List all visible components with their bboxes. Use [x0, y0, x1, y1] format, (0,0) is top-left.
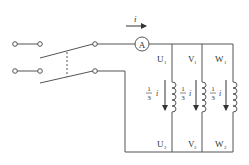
- terminal-v2: V 2: [188, 139, 197, 150]
- winding-w: [233, 44, 237, 152]
- svg-text:3: 3: [211, 94, 215, 102]
- svg-text:1: 1: [211, 85, 215, 93]
- branch-current-u: 1 3 i: [146, 85, 158, 102]
- input-terminal-bottom: [13, 69, 43, 74]
- svg-text:i: i: [156, 89, 158, 98]
- terminal-v1: V 1: [188, 54, 197, 65]
- winding-u: [172, 44, 176, 152]
- svg-text:U: U: [157, 139, 164, 149]
- svg-text:1: 1: [194, 60, 197, 65]
- terminal-w1: W 1: [215, 54, 227, 65]
- terminal-w2: W 2: [215, 139, 227, 150]
- svg-text:i: i: [219, 89, 221, 98]
- ammeter-label: A: [139, 40, 146, 50]
- svg-text:2: 2: [224, 145, 227, 150]
- svg-text:3: 3: [181, 94, 185, 102]
- svg-text:1: 1: [181, 85, 185, 93]
- svg-text:3: 3: [147, 94, 151, 102]
- svg-text:1: 1: [147, 85, 151, 93]
- current-label: i: [134, 14, 137, 24]
- winding-v: [202, 44, 206, 152]
- branch-current-w: 1 3 i: [210, 85, 221, 102]
- double-pole-switch: [40, 42, 97, 83]
- terminal-u1: U 1: [157, 54, 167, 65]
- svg-text:W: W: [215, 139, 224, 149]
- svg-text:W: W: [215, 54, 224, 64]
- svg-text:1: 1: [224, 60, 227, 65]
- circuit-diagram: i A 1 3 i 1 3 i 1 3 i U 1 V 1 W 1 U 2 V: [0, 0, 249, 165]
- svg-text:1: 1: [164, 60, 167, 65]
- svg-text:2: 2: [164, 145, 167, 150]
- svg-text:2: 2: [194, 145, 197, 150]
- input-terminal-top: [13, 42, 43, 47]
- terminal-u2: U 2: [157, 139, 167, 150]
- branch-current-v: 1 3 i: [180, 85, 191, 102]
- svg-text:i: i: [189, 89, 191, 98]
- svg-text:U: U: [157, 54, 164, 64]
